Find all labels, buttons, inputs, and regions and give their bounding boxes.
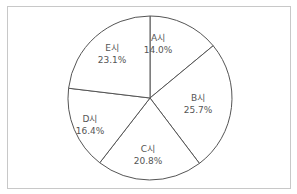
slice-label-c: C시 20.8% (134, 143, 163, 167)
slice-value: 20.8% (134, 155, 163, 167)
slice-label-b: B시 25.7% (184, 92, 213, 116)
slice-name: D시 (76, 113, 105, 125)
slice-label-e: E시 23.1% (98, 42, 127, 66)
slice-label-d: D시 16.4% (76, 113, 105, 137)
slice-name: C시 (134, 143, 163, 155)
slice-name: E시 (98, 42, 127, 54)
slice-value: 14.0% (144, 44, 173, 56)
slice-label-a: A시 14.0% (144, 32, 173, 56)
slice-value: 25.7% (184, 104, 213, 116)
slice-value: 16.4% (76, 125, 105, 137)
slice-name: A시 (144, 32, 173, 44)
slice-value: 23.1% (98, 54, 127, 66)
slice-name: B시 (184, 92, 213, 104)
